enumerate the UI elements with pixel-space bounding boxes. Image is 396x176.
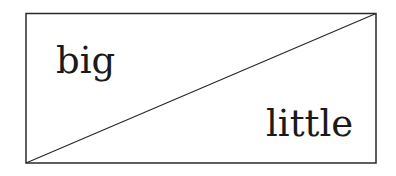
label-little: little: [266, 102, 353, 145]
rectangle-diagram: big little: [0, 0, 396, 176]
label-big: big: [56, 39, 115, 82]
